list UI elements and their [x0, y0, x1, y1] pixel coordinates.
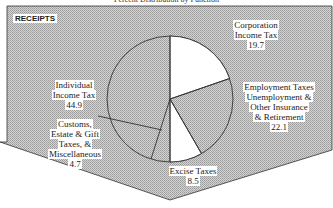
label-text: & Retirement	[253, 112, 304, 122]
label-text: Customs,	[57, 119, 93, 129]
label-text: Corporation	[233, 20, 279, 30]
label-text: Employment Taxes	[243, 82, 314, 92]
label-text: Unemployment &	[245, 92, 312, 102]
label-employment: Employment Taxes Unemployment & Other In…	[234, 82, 324, 132]
label-individual: Individual Income Tax 44.9	[44, 80, 104, 110]
receipts-label: RECEIPTS	[13, 14, 57, 23]
label-customs: Customs, Estate & Gift Taxes, & Miscella…	[44, 119, 106, 169]
label-value: 19.7	[247, 40, 265, 50]
label-text: Other Insurance	[249, 102, 309, 112]
label-text: Income Tax	[52, 90, 96, 100]
label-corporation: Corporation Income Tax 19.7	[216, 20, 296, 50]
label-text: Excise Taxes	[169, 166, 218, 176]
label-text: Income Tax	[234, 30, 278, 40]
label-value: 22.1	[270, 122, 288, 132]
label-value: 8.5	[186, 176, 199, 186]
label-value: 44.9	[65, 100, 83, 110]
label-text: Individual	[55, 80, 94, 90]
label-text: Estate & Gift	[50, 129, 100, 139]
label-value: 4.7	[68, 159, 81, 169]
label-text: Taxes, &	[58, 139, 92, 149]
label-excise: Excise Taxes 8.5	[163, 166, 223, 186]
label-text: Miscellaneous	[48, 149, 102, 159]
